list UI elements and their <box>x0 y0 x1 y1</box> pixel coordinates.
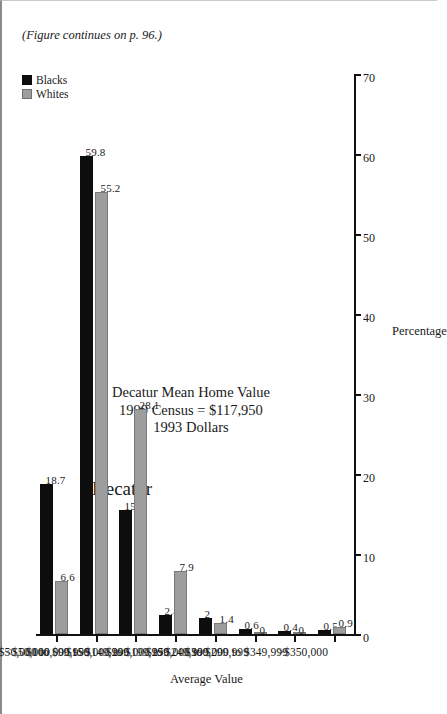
bar-value-label: 0.9 <box>339 617 353 628</box>
bar-blacks <box>119 510 132 634</box>
category-label: >$350,000 <box>278 646 329 658</box>
bar-value-label: 1.4 <box>219 613 233 624</box>
value-tick-label: 0 <box>363 631 369 646</box>
value-tick-label: 50 <box>363 231 375 246</box>
value-tick-label: 40 <box>363 311 375 326</box>
value-tick <box>354 394 361 396</box>
bar-value-label: 0 <box>299 625 305 636</box>
category-axis-line <box>36 634 354 636</box>
value-tick <box>354 634 361 636</box>
category-axis-title: Average Value <box>170 672 243 687</box>
legend-swatch-blacks <box>22 75 32 85</box>
bar-whites <box>134 409 147 634</box>
bar-value-label: 7.9 <box>180 561 194 572</box>
bar-blacks <box>80 156 93 634</box>
bar-value-label: 59.8 <box>85 146 105 157</box>
category-tick <box>96 636 98 642</box>
value-tick-label: 70 <box>363 71 375 86</box>
bar-whites <box>55 581 68 634</box>
bar-value-label: 55.2 <box>100 183 120 194</box>
value-tick <box>354 554 361 556</box>
value-tick <box>354 474 361 476</box>
value-tick <box>354 154 361 156</box>
value-axis-line <box>354 76 356 636</box>
category-tick <box>294 636 296 642</box>
category-tick <box>334 636 336 642</box>
category-tick <box>255 636 257 642</box>
bar-value-label: 28.1 <box>140 400 160 411</box>
value-axis: 010203040506070 <box>354 76 355 636</box>
bar-value-label: 2 <box>204 609 210 620</box>
category-tick <box>175 636 177 642</box>
bar-value-label: 18.7 <box>45 475 65 486</box>
legend-swatch-whites <box>22 89 32 99</box>
figure-continues-note: (Figure continues on p. 96.) <box>22 28 162 43</box>
value-tick-label: 30 <box>363 391 375 406</box>
value-tick-label: 60 <box>363 151 375 166</box>
category-tick <box>56 636 58 642</box>
value-tick <box>354 234 361 236</box>
bar-value-label: 6.6 <box>60 572 74 583</box>
bar-blacks <box>159 615 172 634</box>
bar-blacks <box>199 618 212 634</box>
plot-area: 18.76.659.855.215.528.12.47.921.40.600.4… <box>36 76 354 636</box>
value-tick <box>354 314 361 316</box>
bar-whites <box>95 192 108 634</box>
bar-whites <box>174 571 187 634</box>
value-axis-title: Percentage <box>392 324 447 339</box>
value-tick <box>354 74 361 76</box>
category-tick <box>215 636 217 642</box>
category-label: $300,000 to $349,999 <box>185 646 288 658</box>
bar-value-label: 0.4 <box>284 621 298 632</box>
value-tick-label: 10 <box>363 551 375 566</box>
bar-value-label: 0.6 <box>244 620 258 631</box>
bar-value-label: 0 <box>259 625 265 636</box>
bar-blacks <box>40 484 53 634</box>
category-tick <box>135 636 137 642</box>
value-tick-label: 20 <box>363 471 375 486</box>
